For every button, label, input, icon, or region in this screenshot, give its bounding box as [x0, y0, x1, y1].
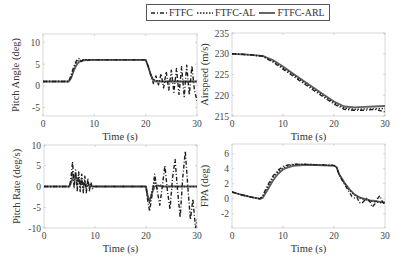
x-tick-label: 10	[278, 119, 288, 129]
y-tick-label: -2	[221, 209, 229, 219]
x-tick-label: 30	[192, 119, 202, 129]
y-axis-label: FPA (deg)	[199, 164, 211, 207]
x-tick-label: 10	[90, 231, 100, 241]
x-tick-label: 0	[230, 119, 235, 129]
y-tick-label: -5	[33, 203, 41, 213]
y-tick-label: 5	[35, 60, 40, 70]
plot-airspeed: 0102030215220225230235Time (s)Airspeed (…	[199, 29, 390, 144]
y-tick-label: 2	[224, 179, 229, 189]
x-tick-label: 0	[41, 119, 46, 129]
y-axis-label: Pitch Angle (deg)	[10, 37, 22, 112]
y-tick-label: -5	[32, 103, 40, 113]
plot-pitch-rate: 0102030-10-50510Time (s)Pitch Rate (deg/…	[11, 141, 202, 256]
x-tick-label: 20	[141, 231, 151, 241]
y-tick-label: 0	[224, 194, 229, 204]
axes-box	[232, 33, 385, 116]
x-tick-label: 0	[42, 231, 47, 241]
axes-box	[232, 144, 385, 228]
x-tick-label: 10	[278, 231, 288, 241]
x-tick-label: 30	[380, 119, 390, 129]
y-axis-label: Airspeed (m/s)	[199, 43, 211, 106]
y-tick-label: 10	[31, 38, 41, 48]
x-tick-label: 20	[141, 119, 151, 129]
x-tick-label: 30	[380, 231, 390, 241]
y-tick-label: 225	[215, 70, 230, 80]
plot-pitch-angle: 0102030-50510Time (s)Pitch Angle (deg)	[10, 34, 202, 143]
y-tick-label: 0	[35, 81, 40, 91]
y-tick-label: 10	[32, 141, 42, 151]
axes-box	[43, 34, 197, 116]
x-axis-label: Time (s)	[103, 243, 139, 255]
y-tick-label: 235	[215, 29, 230, 39]
y-tick-label: 0	[36, 182, 41, 192]
y-tick-label: 5	[36, 161, 41, 171]
subplot-grid: 0102030-50510Time (s)Pitch Angle (deg) 0…	[0, 0, 407, 268]
plot-fpa: 0102030-20246Time (s)FPA (deg)	[199, 144, 390, 255]
x-tick-label: 30	[192, 231, 202, 241]
x-axis-label: Time (s)	[291, 131, 327, 143]
y-tick-label: -10	[28, 224, 41, 234]
y-tick-label: 215	[215, 112, 230, 122]
x-axis-label: Time (s)	[102, 131, 138, 143]
y-tick-label: 220	[215, 91, 230, 101]
x-tick-label: 20	[329, 231, 339, 241]
x-axis-label: Time (s)	[291, 243, 327, 255]
x-tick-label: 0	[230, 231, 235, 241]
y-axis-label: Pitch Rate (deg/s)	[11, 148, 23, 224]
x-tick-label: 20	[329, 119, 339, 129]
y-tick-label: 230	[215, 49, 230, 59]
y-tick-label: 6	[224, 149, 229, 159]
x-tick-label: 10	[90, 119, 100, 129]
y-tick-label: 4	[224, 164, 229, 174]
